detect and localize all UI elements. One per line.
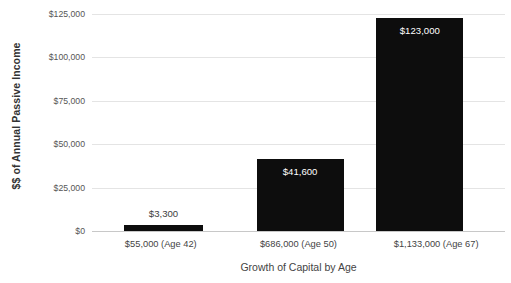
bar-1[interactable]: $3,300 [124, 225, 203, 231]
category-slot-1: $3,300 $55,000 (Age 42) [92, 14, 230, 231]
y-tick-label-0: $0 [75, 226, 85, 236]
bar-2[interactable]: $41,600 [257, 159, 344, 231]
gridline-baseline-0: $0 [92, 231, 505, 232]
y-tick-label-75000: $75,000 [54, 96, 85, 106]
x-tick-label-3: $1,133,000 (Age 67) [394, 239, 479, 249]
x-tick-label-1: $55,000 (Age 42) [125, 239, 197, 249]
y-tick-label-100000: $100,000 [49, 52, 85, 62]
bar-value-label-3: $123,000 [400, 25, 440, 36]
plot-area: $125,000 $100,000 $75,000 $50,000 $25,00… [92, 14, 505, 231]
y-axis-title: $$ of Annual Passive Income [10, 6, 22, 226]
x-tick-label-2: $686,000 (Age 50) [260, 239, 337, 249]
y-tick-label-50000: $50,000 [54, 139, 85, 149]
bar-value-label-2: $41,600 [283, 166, 318, 177]
bar-value-label-1: $3,300 [149, 208, 178, 219]
x-axis-title: Growth of Capital by Age [92, 261, 505, 273]
bar-3[interactable]: $123,000 [376, 18, 463, 232]
y-tick-label-125000: $125,000 [49, 9, 85, 19]
category-slot-2: $41,600 $686,000 (Age 50) [230, 14, 368, 231]
y-tick-label-25000: $25,000 [54, 183, 85, 193]
bar-chart: $$ of Annual Passive Income $125,000 $10… [0, 0, 511, 283]
category-slot-3: $123,000 $1,133,000 (Age 67) [367, 14, 505, 231]
